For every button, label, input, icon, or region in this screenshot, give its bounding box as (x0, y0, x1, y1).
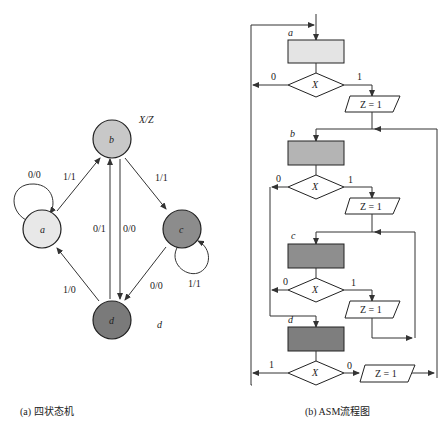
transition-b-to-d: 0/0 (120, 159, 136, 299)
state-machine-diagram: 1/1 1/1 0/1 0/0 0/0 1/0 0/0 1/1 (14, 114, 208, 418)
extra-state-label: d (157, 319, 163, 330)
svg-text:b: b (109, 134, 114, 145)
svg-text:X: X (311, 181, 319, 192)
svg-text:Z = 1: Z = 1 (375, 368, 397, 379)
svg-text:a: a (288, 27, 293, 38)
transition-a-to-b: 1/1 (57, 158, 100, 211)
state-a: a (23, 210, 61, 248)
svg-text:1/1: 1/1 (155, 172, 168, 183)
svg-text:X: X (311, 284, 319, 295)
asm-chart: a X 0 1 Z = 1 b X 0 1 Z (251, 14, 437, 418)
asm-state-a: a X 0 1 Z = 1 (253, 27, 400, 129)
svg-text:a: a (40, 224, 45, 235)
svg-text:b: b (290, 128, 295, 139)
svg-text:Z = 1: Z = 1 (360, 99, 382, 110)
svg-text:0: 0 (347, 360, 352, 371)
svg-text:0: 0 (271, 71, 276, 82)
transition-b-to-c: 1/1 (125, 158, 168, 209)
svg-text:0: 0 (276, 173, 281, 184)
svg-text:1: 1 (357, 71, 362, 82)
svg-text:X: X (311, 367, 319, 378)
svg-text:1/0: 1/0 (63, 284, 76, 295)
svg-text:0/0: 0/0 (28, 169, 41, 180)
svg-text:c: c (291, 230, 296, 241)
diagram-canvas: 1/1 1/1 0/1 0/0 0/0 1/0 0/0 1/1 (0, 0, 447, 428)
svg-text:1/1: 1/1 (188, 278, 201, 289)
caption-a: (a) 四状态机 (20, 405, 74, 418)
svg-text:0/0: 0/0 (123, 223, 136, 234)
svg-text:1/1: 1/1 (63, 171, 76, 182)
svg-text:1: 1 (269, 359, 274, 370)
svg-text:0/0: 0/0 (150, 280, 163, 291)
svg-text:X: X (311, 79, 319, 90)
state-b: b (93, 120, 131, 158)
asm-state-b: b X 0 1 Z = 1 (272, 128, 400, 232)
svg-text:Z = 1: Z = 1 (360, 201, 382, 212)
transition-d-to-a: 1/0 (57, 248, 99, 301)
svg-text:Z = 1: Z = 1 (360, 304, 382, 315)
transition-d-to-b: 0/1 (93, 159, 110, 299)
svg-text:1: 1 (351, 277, 356, 288)
svg-text:0: 0 (283, 276, 288, 287)
transition-c-to-d: 0/0 (125, 247, 166, 300)
svg-text:1: 1 (348, 174, 353, 185)
state-d: d (93, 301, 131, 339)
legend-label: X/Z (138, 114, 154, 125)
caption-b: (b) ASM流程图 (305, 405, 370, 418)
state-c: c (163, 210, 201, 248)
asm-state-d: d X 1 0 Z = 1 (253, 314, 434, 385)
asm-state-c: c X 0 1 Z = 1 (272, 230, 412, 338)
svg-text:c: c (179, 224, 184, 235)
svg-text:0/1: 0/1 (93, 223, 106, 234)
